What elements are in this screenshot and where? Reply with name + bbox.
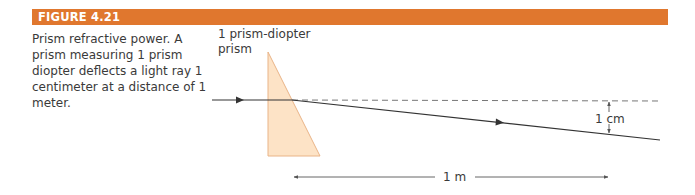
deflection-label: 1 cm <box>595 112 625 126</box>
prism-diagram: 1 cm 1 m <box>0 0 695 195</box>
prism-shape <box>268 52 320 156</box>
undeviated-path-dashed <box>292 100 661 101</box>
deflected-ray-arrow-icon <box>496 119 505 126</box>
incident-ray-arrow-icon <box>236 97 244 104</box>
distance-label: 1 m <box>443 170 466 184</box>
